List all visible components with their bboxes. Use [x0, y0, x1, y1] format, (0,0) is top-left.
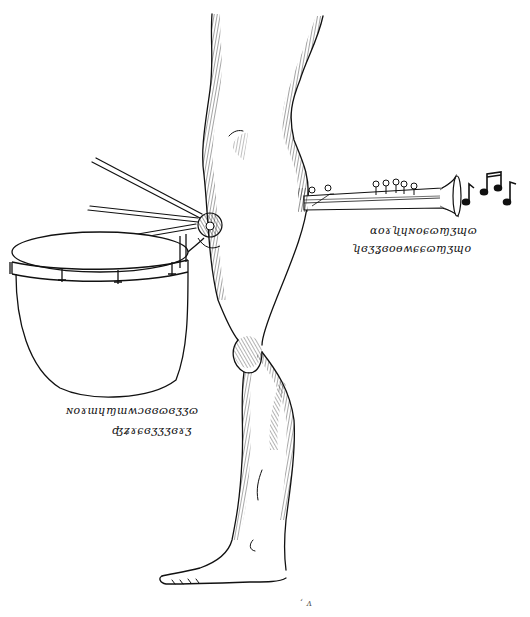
drawing-canvas: ɑoɤʯɥɴoɕɷɱʒɰɷ ʮɞʒʓɞoɵʍɕɕɷɱʒɰo ɴoɤɯɥɱɯʍɔɞ…	[0, 0, 530, 617]
leg-shading	[203, 14, 323, 540]
drum-caption-line-2: ʤʑɤɕɞʒʒʒɞɤʒ	[112, 424, 192, 437]
musical-notes	[463, 172, 517, 205]
clarinet	[298, 176, 461, 216]
bass-drum	[10, 232, 204, 397]
drum-caption-line-1: ɴoɤɯɥɱɯʍɔɞɞɷɞʒʒɷ	[66, 404, 199, 417]
bottom-mark: ʻ ᴧ	[300, 598, 312, 608]
ink-drawing	[0, 0, 530, 617]
clarinet-caption-line-2: ʮɞʒʓɞoɵʍɕɕɷɱʒɰo	[352, 242, 472, 255]
clarinet-caption-line-1: ɑoɤʯɥɴoɕɷɱʒɰɷ	[370, 224, 477, 237]
